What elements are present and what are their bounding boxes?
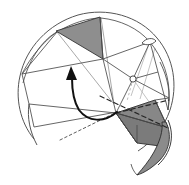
frame-edge-10	[29, 104, 116, 113]
geometry-figure-svg: Spherical polyhedron folding diagram	[0, 0, 189, 185]
boundary-arc-lower-left	[28, 104, 37, 145]
dashed-fold-lower-left	[60, 112, 117, 140]
dome-rib-top-right	[101, 18, 150, 42]
curved-flap-tail	[131, 164, 137, 175]
frame-edge-13	[22, 74, 29, 104]
pale-edge-b	[101, 18, 114, 104]
upper-shaded-facet	[56, 17, 103, 59]
pale-edge-c	[131, 44, 149, 96]
lower-facet-edge-top	[155, 98, 169, 100]
lens-marker	[142, 39, 156, 45]
dome-rib-left-inner	[23, 32, 57, 83]
frame-edge-4	[133, 79, 169, 98]
frame-edge-5	[133, 72, 158, 79]
rotation-arrow-head	[66, 66, 77, 80]
geometry-figure-canvas: Spherical polyhedron folding diagram	[0, 0, 189, 185]
upper-shaded-facet-group	[56, 17, 103, 59]
vertex-node	[130, 76, 136, 82]
lens-marker-group	[142, 39, 156, 45]
frame-edge-16	[150, 42, 158, 72]
vertex-node-group	[130, 76, 136, 82]
frame-edge-7	[22, 59, 103, 74]
frame-edge-8	[103, 59, 116, 113]
